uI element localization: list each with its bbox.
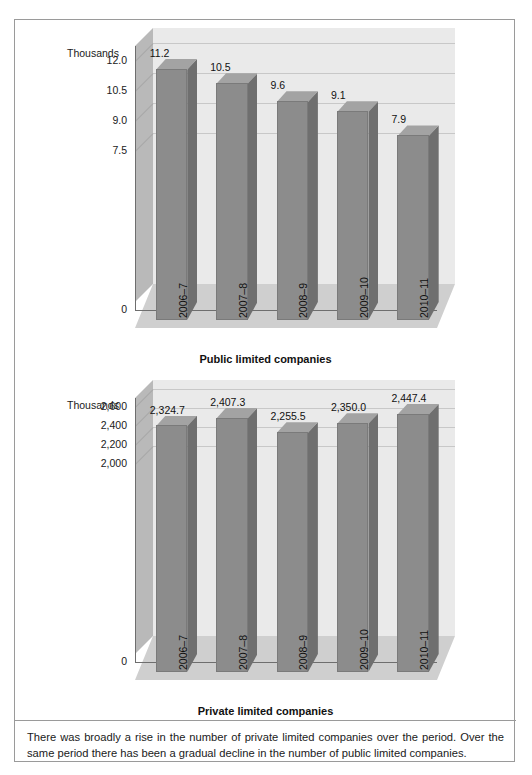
y-axis-tick-label: 2,000 bbox=[63, 457, 127, 469]
chart-public-limited-companies: Thousands 12.010.59.07.5011.22006–710.52… bbox=[15, 20, 516, 365]
bar-side-face bbox=[248, 408, 258, 672]
bar-side-face bbox=[308, 91, 318, 320]
chart-title-private: Private limited companies bbox=[15, 705, 516, 717]
bar-value-label: 11.2 bbox=[150, 47, 170, 59]
chart-gridline bbox=[153, 43, 455, 44]
bar-value-label: 2,324.7 bbox=[150, 404, 185, 416]
bar-value-label: 10.5 bbox=[210, 61, 230, 73]
bar-value-label: 2,407.3 bbox=[210, 396, 245, 408]
figure-caption: There was broadly a rise in the number o… bbox=[15, 720, 516, 761]
x-axis-tick-label: 2006–7 bbox=[177, 635, 189, 670]
bar-value-label: 2,447.4 bbox=[391, 392, 426, 404]
x-axis-tick-label: 2009–10 bbox=[358, 277, 370, 318]
bar-side-face bbox=[429, 125, 439, 320]
y-axis-tick-label: 0 bbox=[63, 303, 127, 315]
x-axis-tick-label: 2008–9 bbox=[297, 283, 309, 318]
chart-gridline bbox=[153, 73, 455, 74]
bar-side-face bbox=[187, 416, 197, 672]
y-axis-tick-label: 9.0 bbox=[63, 114, 127, 126]
bar-side-face bbox=[187, 59, 197, 320]
chart-title-public: Public limited companies bbox=[15, 353, 516, 365]
x-axis-tick-label: 2009–10 bbox=[358, 629, 370, 670]
y-axis-tick-label: 2,200 bbox=[63, 438, 127, 450]
bar-value-label: 7.9 bbox=[391, 113, 406, 125]
bar-front-face bbox=[216, 418, 247, 672]
bar-side-face bbox=[308, 422, 318, 672]
plot-area-public: 12.010.59.07.5011.22006–710.52007–89.620… bbox=[135, 28, 455, 328]
y-axis-tick-label: 7.5 bbox=[63, 144, 127, 156]
y-axis-tick-label: 2,600 bbox=[63, 400, 127, 412]
y-axis-tick-label: 10.5 bbox=[63, 84, 127, 96]
bar-column bbox=[216, 408, 257, 672]
bar-value-label: 9.6 bbox=[271, 79, 286, 91]
x-axis-tick-label: 2006–7 bbox=[177, 283, 189, 318]
y-axis-tick-label: 2,400 bbox=[63, 419, 127, 431]
x-axis-tick-label: 2010–11 bbox=[418, 278, 430, 318]
y-axis-line bbox=[135, 398, 136, 662]
y-axis-tick-label: 12.0 bbox=[63, 54, 127, 66]
x-axis-tick-label: 2007–8 bbox=[237, 283, 249, 318]
x-axis-tick-label: 2010–11 bbox=[418, 630, 430, 670]
bar-value-label: 2,350.0 bbox=[331, 401, 366, 413]
bar-column bbox=[156, 416, 197, 672]
x-axis-tick-label: 2007–8 bbox=[237, 635, 249, 670]
x-axis-tick-label: 2008–9 bbox=[297, 635, 309, 670]
bar-side-face bbox=[248, 73, 258, 320]
chart-side-wall bbox=[135, 380, 153, 654]
y-axis-line bbox=[135, 46, 136, 310]
figure-frame: Thousands 12.010.59.07.5011.22006–710.52… bbox=[14, 19, 515, 762]
bar-side-face bbox=[429, 404, 439, 672]
bar-value-label: 9.1 bbox=[331, 89, 346, 101]
plot-area-private: 2,6002,4002,2002,00002,324.72006–72,407.… bbox=[135, 380, 455, 680]
chart-private-limited-companies: Thousands 2,6002,4002,2002,00002,324.720… bbox=[15, 372, 516, 717]
bar-column bbox=[156, 59, 197, 320]
chart-gridline bbox=[153, 389, 455, 390]
chart-side-wall bbox=[135, 28, 153, 302]
y-axis-tick-label: 0 bbox=[63, 655, 127, 667]
bar-value-label: 2,255.5 bbox=[271, 410, 306, 422]
